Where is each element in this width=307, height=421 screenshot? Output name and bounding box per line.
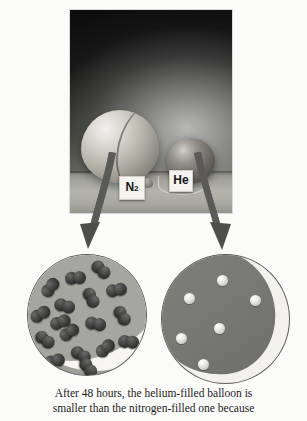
helium-atom [250, 295, 261, 306]
helium-atom [198, 359, 209, 370]
nitrogen-atom [73, 271, 86, 284]
nitrogen-molecule [65, 271, 88, 287]
helium-atom [217, 275, 228, 286]
label-nitrogen-text: N [125, 180, 134, 194]
nitrogen-molecule [43, 353, 67, 371]
label-helium-text: He [173, 173, 188, 187]
figure-container: N2 He After 48 hours, the helium-filled … [0, 0, 307, 421]
label-card-nitrogen: N2 [119, 176, 145, 200]
label-card-helium: He [169, 170, 193, 192]
nitrogen-atom [125, 335, 141, 351]
nitrogen-atom [51, 353, 66, 368]
caption-line-1: After 48 hours, the helium-filled balloo… [0, 386, 307, 401]
photograph-of-two-balloons: N2 He [70, 10, 232, 213]
helium-atom [176, 333, 187, 344]
nitrogen-balloon-photo [81, 110, 159, 183]
helium-inset-gas-region [161, 254, 281, 381]
helium-balloon-magnified-view [161, 254, 290, 384]
helium-atom [184, 293, 195, 304]
arrow-to-nitrogen-inset-head [80, 222, 100, 249]
helium-atom [214, 323, 225, 334]
nitrogen-molecule [106, 282, 129, 298]
nitrogen-atom [114, 282, 128, 296]
arrow-to-helium-inset-head [210, 222, 231, 250]
label-nitrogen-subscript: 2 [134, 184, 138, 193]
figure-caption: After 48 hours, the helium-filled balloo… [0, 386, 307, 415]
caption-line-2: smaller than the nitrogen-filled one bec… [0, 401, 307, 416]
nitrogen-balloon-magnified-view [27, 254, 147, 376]
